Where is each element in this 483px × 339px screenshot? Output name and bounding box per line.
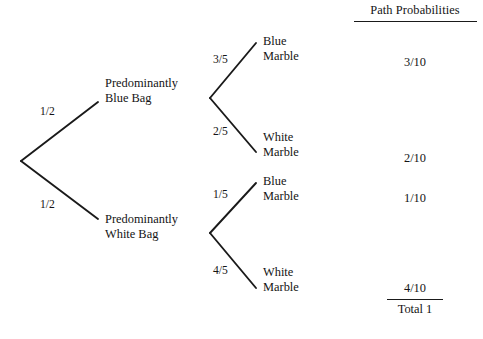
leaf-label-white-bag-blue-marble-line1: Blue (263, 175, 286, 188)
path-probabilities-header-underline (354, 21, 477, 22)
branch-label-root-white-bag: 1/2 (40, 199, 55, 211)
edge-root-to-blue-bag (21, 102, 98, 161)
path-probability-value-1: 3/10 (350, 56, 480, 69)
leaf-label-blue-bag-white-marble-line1: White (263, 131, 293, 144)
node-label-blue-bag-line1: Predominantly (105, 77, 178, 90)
edge-white-bag-to-white-marble (210, 233, 256, 288)
branch-label-blue-bag-blue-marble: 3/5 (213, 54, 228, 66)
leaf-label-white-bag-white-marble-line1: White (263, 266, 293, 279)
branch-label-blue-bag-white-marble: 2/5 (213, 126, 228, 138)
leaf-label-blue-bag-blue-marble-line1: Blue (263, 35, 286, 48)
edge-root-to-white-bag (21, 161, 98, 219)
branch-label-root-blue-bag: 1/2 (40, 106, 55, 118)
node-label-white-bag-line2: White Bag (105, 228, 158, 241)
leaf-label-white-bag-white-marble-line2: Marble (263, 281, 299, 294)
leaf-label-blue-bag-blue-marble-line2: Marble (263, 50, 299, 63)
node-label-white-bag-line1: Predominantly (105, 213, 178, 226)
leaf-label-white-bag-blue-marble-line2: Marble (263, 190, 299, 203)
leaf-label-blue-bag-white-marble-line2: Marble (263, 146, 299, 159)
branch-label-white-bag-white-marble: 4/5 (213, 265, 228, 277)
edge-blue-bag-to-blue-marble (210, 43, 256, 98)
path-probability-value-4: 4/10 (350, 282, 480, 295)
total-sum-rule (387, 299, 443, 300)
node-label-blue-bag-line2: Blue Bag (105, 92, 151, 105)
path-probabilities-header: Path Probabilities (350, 4, 480, 17)
path-probability-value-3: 1/10 (350, 192, 480, 205)
total-label: Total 1 (350, 303, 480, 316)
branch-label-white-bag-blue-marble: 1/5 (213, 189, 228, 201)
path-probability-value-2: 2/10 (350, 152, 480, 165)
